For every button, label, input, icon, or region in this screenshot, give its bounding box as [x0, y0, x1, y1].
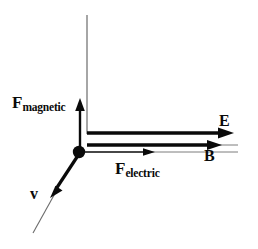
label-e-field: E	[219, 113, 230, 129]
label-f-magnetic-lead: F	[12, 93, 22, 112]
vector-f-magnetic-arrowhead	[75, 98, 85, 111]
guide-lines	[33, 15, 238, 233]
vector-e-field-arrowhead	[218, 128, 234, 139]
vector-velocity-shaft	[56, 154, 79, 189]
label-b-field: B	[204, 148, 215, 164]
vector-velocity-arrowhead	[50, 186, 63, 198]
label-f-electric-lead: F	[115, 159, 125, 178]
vector-b-field	[87, 140, 222, 150]
vector-e-field	[87, 128, 234, 139]
label-f-magnetic-subscript: magnetic	[22, 101, 65, 113]
vector-velocity	[50, 154, 79, 198]
physics-vector-diagram: Fmagnetic Felectric E B v	[0, 0, 258, 249]
label-velocity: v	[30, 186, 38, 202]
vector-f-electric	[81, 148, 155, 156]
label-f-electric-subscript: electric	[125, 167, 159, 179]
vector-f-magnetic	[75, 98, 85, 151]
vector-f-electric-arrowhead	[143, 148, 155, 156]
label-f-electric: Felectric	[115, 160, 160, 177]
label-f-magnetic: Fmagnetic	[12, 94, 66, 111]
origin-particle-dot	[73, 146, 85, 158]
